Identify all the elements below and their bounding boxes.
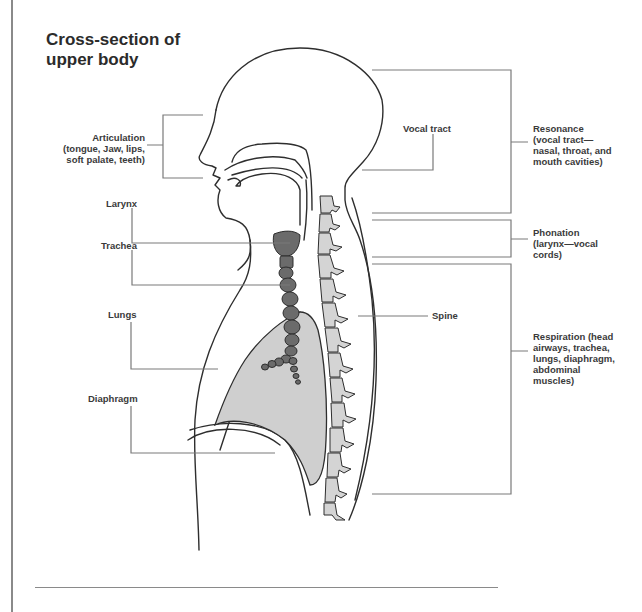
spine <box>318 196 356 520</box>
group-phonation: Phonation (larynx—vocal cords) <box>533 227 633 260</box>
tongue <box>228 173 300 225</box>
trachea-leader <box>132 250 290 285</box>
label-lungs: Lungs <box>108 309 137 320</box>
group-resonance: Resonance (vocal tract— nasal, throat, a… <box>533 123 633 167</box>
phonation-bracket <box>372 220 528 257</box>
vocal-tract-leader <box>362 134 433 170</box>
resonance-bracket <box>372 70 528 213</box>
larynx-leader <box>132 208 290 243</box>
upper-body-illustration <box>0 0 642 612</box>
label-larynx: Larynx <box>106 198 137 209</box>
face-profile <box>199 110 250 270</box>
pharynx-wall <box>304 180 307 240</box>
lung <box>215 312 327 485</box>
bottom-divider <box>35 587 498 588</box>
group-respiration: Respiration (head airways, trachea, lung… <box>533 331 633 386</box>
respiration-bracket <box>372 264 528 494</box>
articulation-bracket <box>147 115 203 178</box>
hard-palate <box>225 157 307 178</box>
label-spine: Spine <box>432 310 458 321</box>
label-trachea: Trachea <box>101 240 137 251</box>
diaphragm-curve-outer <box>188 429 280 445</box>
back-outline <box>352 198 374 500</box>
label-vocal-tract: Vocal tract <box>403 123 451 134</box>
label-articulation: Articulation (tongue, Jaw, lips, soft pa… <box>60 132 145 165</box>
label-diaphragm: Diaphragm <box>88 393 138 404</box>
